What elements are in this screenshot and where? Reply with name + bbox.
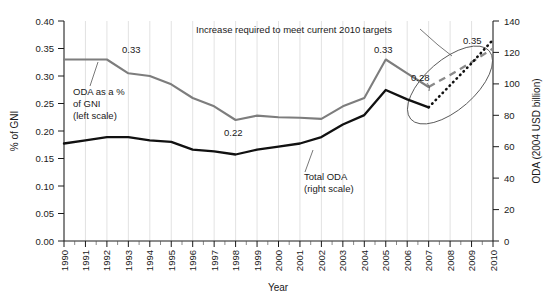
y2tick-40: 40	[504, 173, 515, 184]
y-axis-right-title: ODA (2004 USD billion)	[531, 78, 542, 183]
xtick-2006: 2006	[402, 250, 413, 271]
xtick-2010: 2010	[488, 250, 499, 271]
y2tick-100: 100	[504, 78, 520, 89]
ytick-0-20: 0.20	[36, 126, 55, 137]
xtick-2000: 2000	[273, 250, 284, 271]
ytick-0-25: 0.25	[36, 98, 55, 109]
y2tick-140: 140	[504, 16, 520, 27]
ytick-0-10: 0.10	[36, 181, 55, 192]
data-label-0-35-2010: 0.35	[463, 35, 482, 46]
xtick-2009: 2009	[466, 250, 477, 271]
xtick-1996: 1996	[187, 250, 198, 271]
data-label-0-33-1992: 0.33	[122, 44, 141, 55]
ytick-0-05: 0.05	[36, 208, 55, 219]
y2tick-60: 60	[504, 141, 515, 152]
y2tick-80: 80	[504, 110, 515, 121]
x-axis-title: Year	[268, 282, 289, 293]
oda-trends-chart: 0.00 0.05 0.10 0.15 0.20 0.25 0.30 0.35 …	[0, 0, 556, 298]
xtick-2002: 2002	[316, 250, 327, 271]
x-axis-ticks	[64, 241, 493, 247]
oda-gni-label-line3: (left scale)	[73, 110, 117, 121]
xtick-1991: 1991	[80, 250, 91, 271]
total-oda-label-line2: (right scale)	[304, 183, 354, 194]
total-oda-label-line1: Total ODA	[304, 171, 348, 182]
y-axis-left-labels: 0.00 0.05 0.10 0.15 0.20 0.25 0.30 0.35 …	[36, 16, 55, 247]
y2tick-120: 120	[504, 47, 520, 58]
xtick-1990: 1990	[59, 250, 70, 271]
xtick-1992: 1992	[101, 250, 112, 271]
y2tick-0: 0	[504, 236, 509, 247]
y2tick-20: 20	[504, 204, 515, 215]
annotation-increase-required: Increase required to meet current 2010 t…	[196, 24, 392, 35]
data-label-0-22-1998: 0.22	[224, 127, 243, 138]
xtick-1998: 1998	[230, 250, 241, 271]
xtick-1995: 1995	[166, 250, 177, 271]
xtick-2004: 2004	[359, 250, 370, 271]
chart-figure: 0.00 0.05 0.10 0.15 0.20 0.25 0.30 0.35 …	[0, 0, 556, 298]
xtick-2008: 2008	[445, 250, 456, 271]
xtick-1999: 1999	[252, 250, 263, 271]
ytick-0-40: 0.40	[36, 16, 55, 27]
ytick-0-15: 0.15	[36, 153, 55, 164]
xtick-1993: 1993	[123, 250, 134, 271]
xtick-2003: 2003	[337, 250, 348, 271]
xtick-2007: 2007	[423, 250, 434, 271]
xtick-2001: 2001	[294, 250, 305, 271]
data-label-0-33-2005: 0.33	[374, 44, 393, 55]
oda-gni-label-line2: of GNI	[73, 98, 100, 109]
x-axis-labels: 1990 1991 1992 1993 1994 1995 1996 1997 …	[59, 250, 499, 271]
oda-gni-label-line1: ODA as a %	[73, 86, 125, 97]
xtick-1994: 1994	[144, 250, 155, 271]
xtick-2005: 2005	[380, 250, 391, 271]
ytick-0-30: 0.30	[36, 71, 55, 82]
data-label-0-28-2007: 0.28	[411, 72, 430, 83]
annotation-total-oda-label: Total ODA (right scale)	[304, 171, 354, 194]
xtick-1997: 1997	[209, 250, 220, 271]
ytick-0-35: 0.35	[36, 43, 55, 54]
ytick-0-00: 0.00	[36, 236, 55, 247]
y-axis-left-title: % of GNI	[9, 111, 20, 152]
